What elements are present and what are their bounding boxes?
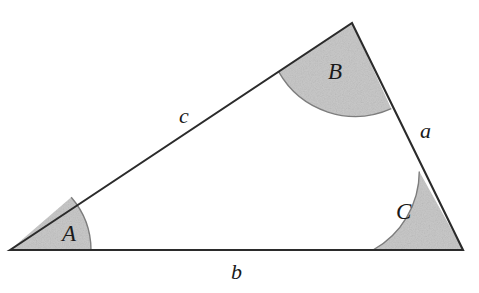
side-label-a: a [420, 120, 431, 142]
angle-label-C: C [396, 200, 411, 223]
triangle-drawing [0, 0, 479, 293]
angle-label-A: A [62, 222, 76, 245]
triangle-figure: A B C a b c [0, 0, 479, 293]
side-label-b: b [231, 261, 242, 283]
side-label-c: c [179, 105, 189, 127]
angle-label-B: B [328, 60, 342, 83]
